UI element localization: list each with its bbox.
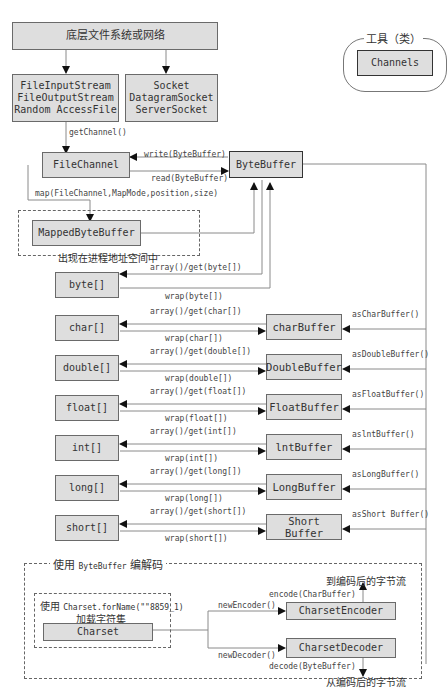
wrap-label: wrap(char[])	[165, 334, 223, 343]
new-encoder-label: newEncoder()	[218, 601, 276, 610]
get-channel-label: getChannel()	[69, 128, 127, 137]
charset-decoder-box: CharsetDecoder	[286, 638, 396, 658]
typed-buffer-box: lntBuffer	[266, 434, 342, 460]
typed-buffer-box: Short Buffer	[266, 514, 342, 540]
wrap-label: wrap(int[])	[165, 454, 218, 463]
byte-get-label: array()/get(byte[])	[150, 263, 242, 272]
wrap-label: wrap(double[])	[165, 374, 232, 383]
stream-label: FileInputStream	[20, 80, 110, 92]
typed-buffer-label: LongBuffer	[272, 481, 335, 493]
typed-buffer-label: charBuffer	[272, 321, 335, 333]
typed-buffer-label: lntBuffer	[276, 441, 333, 453]
get-label: array()/get(long[])	[150, 467, 242, 476]
encode-label: encode(CharBuffer)	[269, 590, 356, 599]
typed-buffer-box: LongBuffer	[266, 474, 342, 500]
file-channel-label: FileChannel	[53, 159, 119, 171]
byte-buffer-box: ByteBuffer	[229, 151, 303, 178]
to-stream-label: 到编码后的字节流	[326, 573, 406, 588]
array-box: int[]	[55, 435, 119, 461]
legend-title: 工具（类）	[364, 30, 423, 46]
stream-label: Random AccessFile	[14, 104, 116, 116]
array-box: float[]	[55, 395, 119, 421]
array-label: float[]	[66, 402, 108, 414]
typed-buffer-label: FloatBuffer	[269, 401, 339, 413]
byte-buffer-label: ByteBuffer	[236, 159, 296, 171]
array-label: short[]	[66, 522, 108, 534]
get-label: array()/get(double[])	[150, 347, 251, 356]
codec-title: 使用 ByteBuffer 编解码	[50, 556, 166, 572]
array-box: double[]	[55, 355, 119, 381]
charset-decoder-label: CharsetDecoder	[299, 642, 383, 654]
wrap-label: wrap(short[])	[165, 534, 228, 543]
charset-encoder-box: CharsetEncoder	[286, 602, 396, 620]
get-label: array()/get(char[])	[150, 307, 242, 316]
socket-label: DatagramSocket	[129, 92, 213, 104]
as-buffer-label: asLongBuffer()	[352, 470, 419, 479]
charset-box: Charset	[43, 623, 153, 641]
mapped-byte-buffer-box: MappedByteBuffer	[32, 220, 141, 246]
typed-buffer-box: charBuffer	[266, 314, 342, 340]
file-streams-box: FileInputStream FileOutputStream Random …	[12, 74, 119, 122]
array-box: long[]	[55, 475, 119, 501]
charset-encoder-label: CharsetEncoder	[299, 605, 383, 617]
wrap-label: wrap(float[])	[165, 414, 228, 423]
array-label: int[]	[72, 442, 102, 454]
byte-wrap-label: wrap(byte[])	[165, 292, 223, 301]
as-buffer-label: asShort Buffer()	[352, 510, 429, 519]
fs-network-box: 底层文件系统或网络	[12, 22, 218, 50]
read-label: read(ByteBuffer)	[151, 174, 228, 183]
channels-label: Channels	[371, 57, 419, 69]
typed-buffer-label: DoubleBuffer	[266, 361, 342, 373]
typed-buffer-box: FloatBuffer	[266, 394, 342, 420]
get-label: array()/get(short[])	[150, 507, 246, 516]
array-label: char[]	[69, 322, 105, 334]
socket-label: ServerSocket	[135, 104, 207, 116]
array-label: long[]	[69, 482, 105, 494]
as-buffer-label: asDoubleBuffer()	[352, 350, 429, 359]
sockets-box: Socket DatagramSocket ServerSocket	[125, 74, 218, 122]
mapped-note: 出现在进程地址空间中	[58, 250, 158, 265]
typed-buffer-box: DoubleBuffer	[266, 354, 342, 380]
from-stream-label: 从编码后的字节流	[326, 674, 406, 689]
stream-label: FileOutputStream	[17, 92, 113, 104]
fs-network-label: 底层文件系统或网络	[66, 30, 165, 42]
file-channel-box: FileChannel	[42, 152, 130, 178]
as-buffer-label: asCharBuffer()	[352, 310, 419, 319]
array-box: char[]	[55, 315, 119, 341]
wrap-label: wrap(long[])	[165, 494, 223, 503]
channels-box: Channels	[357, 50, 433, 76]
socket-label: Socket	[153, 80, 189, 92]
get-label: array()/get(int[])	[150, 427, 237, 436]
new-decoder-label: newDecoder()	[218, 651, 276, 660]
write-label: write(ByteBuffer)	[144, 150, 226, 159]
typed-buffer-label: Short Buffer	[267, 515, 341, 539]
mapped-byte-buffer-label: MappedByteBuffer	[38, 227, 134, 239]
byte-array-box: byte[]	[55, 272, 119, 298]
array-label: double[]	[63, 362, 111, 374]
array-box: short[]	[55, 515, 119, 541]
charset-label: Charset	[77, 626, 119, 638]
byte-array-label: byte[]	[69, 279, 105, 291]
get-label: array()/get(float[])	[150, 387, 246, 396]
map-label: map(FileChannel,MapMode,position,size)	[35, 189, 218, 198]
as-buffer-label: aslntBuffer()	[352, 430, 415, 439]
as-buffer-label: asFloatBuffer()	[352, 390, 424, 399]
decode-label: decode(ByteBuffer)	[269, 662, 356, 671]
